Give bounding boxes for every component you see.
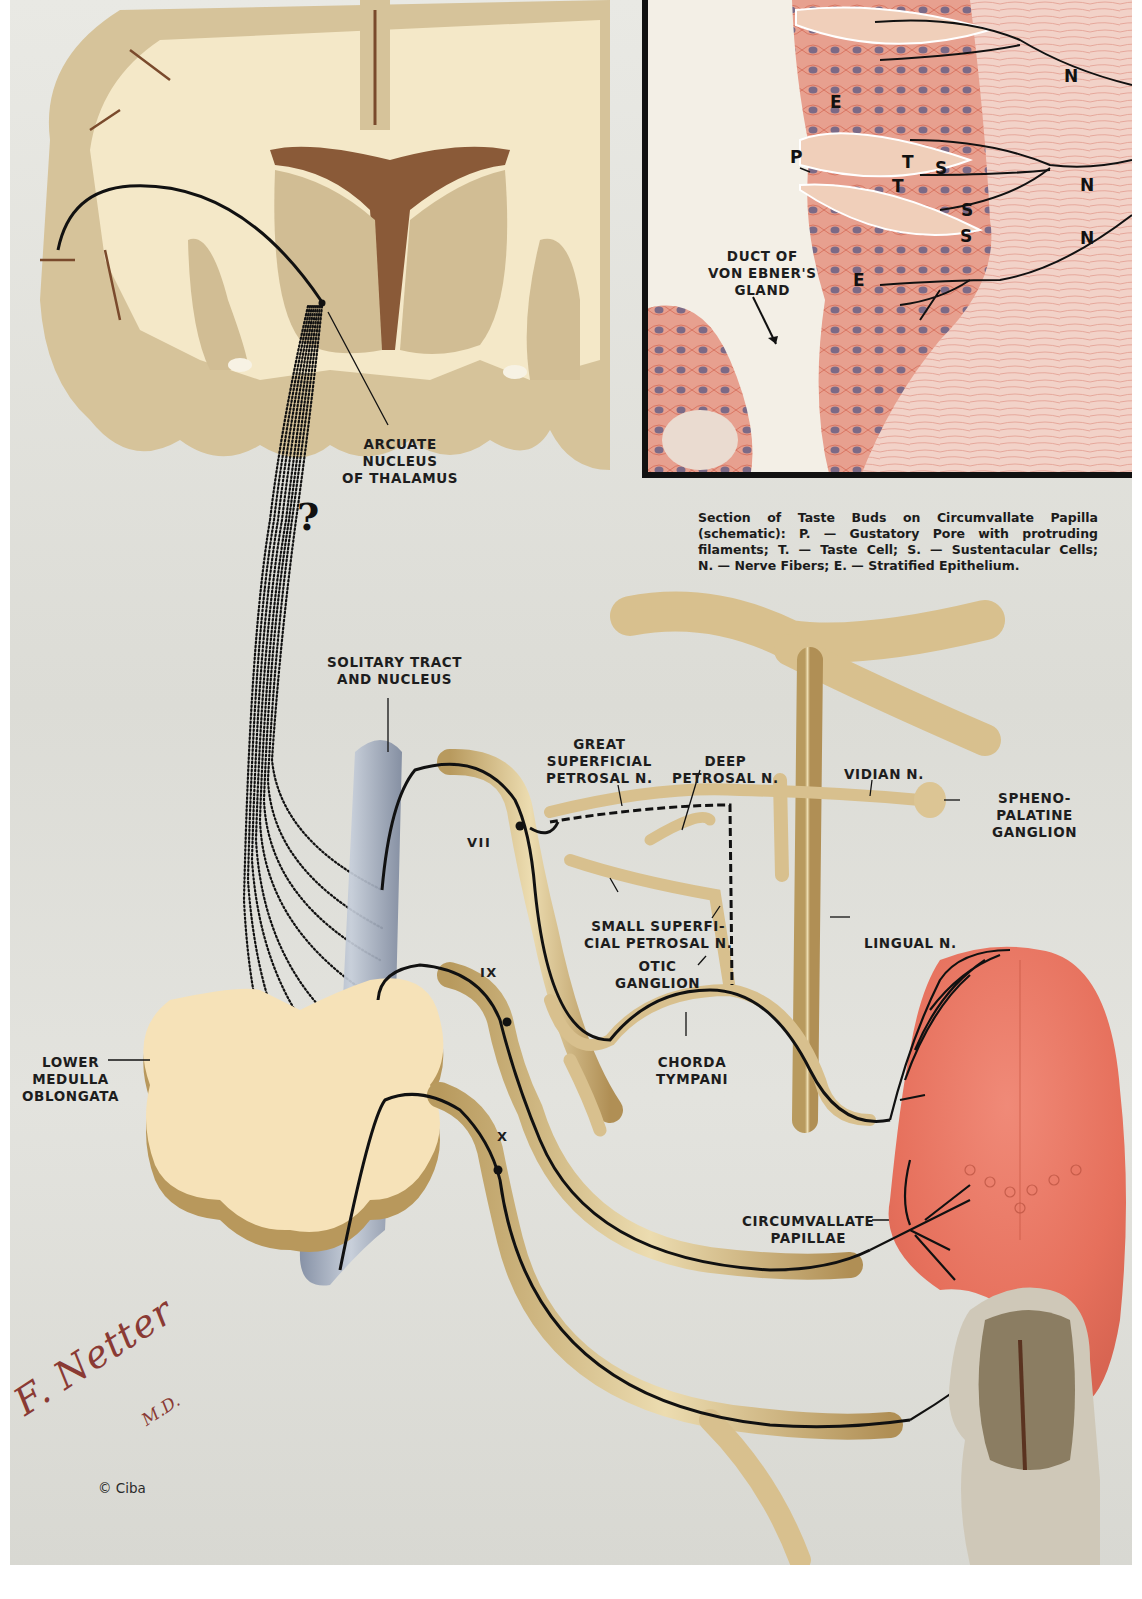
label-otic-ganglion: OTICGANGLION <box>615 958 700 992</box>
label-vidian-nerve: VIDIAN N. <box>844 766 924 783</box>
label-arcuate-nucleus: ARCUATENUCLEUSOF THALAMUS <box>342 436 458 487</box>
label-chorda-tympani: CHORDATYMPANI <box>656 1054 728 1088</box>
inset-label-nerve-fiber: N <box>1080 228 1094 248</box>
inset-label-epithelium: E <box>830 92 842 112</box>
label-cranial-nerve-x: X <box>497 1128 509 1145</box>
label-cranial-nerve-ix: IX <box>480 964 498 981</box>
inset-label-sustentacular: S <box>935 158 947 178</box>
inset-label-nerve-fiber: N <box>1080 175 1094 195</box>
label-great-superficial-petrosal: GREATSUPERFICIALPETROSAL N. <box>546 736 653 787</box>
uncertain-pathway-question-mark: ? <box>297 494 319 539</box>
illustration-plate: ? <box>10 0 1132 1565</box>
taste-bud-histology-inset <box>642 0 1132 478</box>
lower-medulla-oblongata <box>108 978 443 1252</box>
copyright-notice: © Ciba <box>98 1480 146 1496</box>
label-lingual-nerve: LINGUAL N. <box>864 935 957 952</box>
brain-coronal-section <box>40 0 610 470</box>
taste-nerve-fibers <box>340 764 910 1426</box>
inset-label-sustentacular: S <box>960 226 972 246</box>
label-sphenopalatine-ganglion: SPHENO-PALATINEGANGLION <box>992 790 1077 841</box>
label-deep-petrosal: DEEPPETROSAL N. <box>672 753 779 787</box>
label-lower-medulla: LOWERMEDULLAOBLONGATA <box>22 1054 119 1105</box>
epiglottis-larynx <box>949 1288 1100 1566</box>
inset-label-epithelium: E <box>853 270 865 290</box>
label-duct-von-ebner: DUCT OFVON EBNER'SGLAND <box>708 248 817 299</box>
inset-label-taste-cell: T <box>902 152 914 172</box>
inset-label-nerve-fiber: N <box>1064 66 1078 86</box>
label-cranial-nerve-vii: VII <box>467 834 491 851</box>
label-circumvallate-papillae: CIRCUMVALLATEPAPILLAE <box>742 1213 874 1247</box>
inset-label-sustentacular: S <box>961 200 973 220</box>
inset-caption: Section of Taste Buds on Circumvallate P… <box>698 510 1098 574</box>
label-small-superficial-petrosal: SMALL SUPERFI-CIAL PETROSAL N. <box>584 918 732 952</box>
inset-label-pore: P <box>790 147 802 167</box>
label-solitary-tract: SOLITARY TRACTAND NUCLEUS <box>327 654 462 688</box>
inset-label-taste-cell: T <box>892 176 904 196</box>
